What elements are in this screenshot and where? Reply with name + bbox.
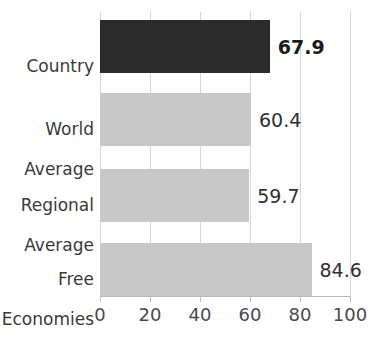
category-label-free-economies: Free Economies [2,249,94,339]
bar-country [100,20,270,73]
x-tick-label-40: 40 [189,305,212,325]
category-label-regional-average-line1: Regional [21,195,94,215]
x-tick-mark-20 [150,297,151,302]
horizontal-bar-chart: Country World Average Regional Average F… [0,0,376,339]
x-tick-mark-100 [350,297,351,302]
category-label-free-economies-line2: Economies [2,309,94,329]
x-tick-label-100: 100 [333,305,367,325]
value-label-country: 67.9 [278,37,325,57]
bar-free-economies [100,243,312,296]
category-label-world-average-line1: World [24,119,94,139]
category-label-country-line1: Country [26,56,94,76]
x-axis-line [100,296,351,297]
x-tick-mark-40 [200,297,201,302]
x-tick-mark-80 [300,297,301,302]
bar-world-average [100,93,251,146]
value-label-world-average: 60.4 [259,110,301,130]
category-label-free-economies-line1: Free [2,269,94,289]
gridline-100 [350,12,351,297]
value-label-regional-average: 59.7 [257,186,299,206]
category-label-country: Country [26,36,94,76]
x-tick-mark-0 [100,297,101,302]
x-tick-label-80: 80 [289,305,312,325]
x-tick-mark-60 [250,297,251,302]
x-tick-label-20: 20 [139,305,162,325]
x-tick-label-60: 60 [239,305,262,325]
x-tick-label-0: 0 [94,305,105,325]
value-label-free-economies: 84.6 [320,260,362,280]
bar-regional-average [100,169,249,222]
